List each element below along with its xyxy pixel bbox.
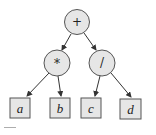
edge-plus-to-div xyxy=(84,33,96,50)
leaf-d: d xyxy=(120,99,141,119)
node-div: / xyxy=(89,50,115,76)
leaf-b-label: b xyxy=(57,101,64,116)
edges xyxy=(27,33,131,97)
leaf-a: a xyxy=(10,98,30,118)
edge-div-to-c xyxy=(95,76,100,96)
node-mul: * xyxy=(44,50,70,76)
edge-plus-to-mul xyxy=(62,34,71,50)
cropped-caption-mark xyxy=(4,127,16,132)
leaf-c-label: c xyxy=(88,101,94,116)
edge-div-to-d xyxy=(111,73,131,97)
node-plus-label: + xyxy=(72,15,82,29)
leaf-c: c xyxy=(81,98,101,118)
edge-mul-to-b xyxy=(58,76,61,96)
leaf-a-label: a xyxy=(17,101,24,116)
node-mul-label: * xyxy=(54,57,60,71)
leaf-b: b xyxy=(50,98,70,118)
node-plus: + xyxy=(65,10,90,35)
leaf-d-label: d xyxy=(127,102,134,117)
expression-tree-diagram: + * / a b c d xyxy=(0,0,156,135)
edge-mul-to-a xyxy=(27,73,49,96)
